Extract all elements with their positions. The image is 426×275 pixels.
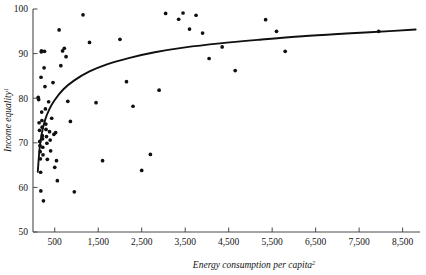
data-point [233,69,237,73]
data-point [42,199,46,203]
data-point [181,11,185,15]
data-point [149,153,153,157]
data-point [88,41,92,45]
data-point [54,131,58,135]
data-point [44,128,48,132]
x-tick-labels: 5001,5002,5003,5004,5005,5006,5007,5008,… [48,237,414,247]
data-point [59,64,63,68]
y-tick-label: 70 [19,138,29,148]
x-tick-label: 500 [48,237,63,247]
data-point [39,75,43,79]
y-tick-label: 90 [19,49,29,59]
data-point [64,55,68,59]
data-point [39,170,43,174]
y-tick-label: 80 [19,94,29,104]
scatter-plot-svg: 5001,5002,5003,5004,5005,5006,5007,5008,… [0,0,426,275]
data-point [45,135,49,139]
y-tick-label: 50 [19,227,29,237]
y-tick-label: 100 [14,4,29,14]
x-tick-label: 5,500 [261,237,283,247]
data-point [50,116,54,120]
data-point [62,46,66,50]
data-point [283,50,287,54]
data-point [194,13,198,17]
data-point [46,157,50,161]
fit-curve-path [38,30,416,172]
x-tick-label: 6,500 [305,237,327,247]
data-point [48,130,52,134]
fit-curve [38,30,416,172]
data-point [38,128,42,132]
x-tick-label: 1,500 [88,237,110,247]
data-point [45,141,49,145]
data-point [42,66,46,70]
data-point [118,37,122,41]
data-point [188,27,192,31]
data-point [40,110,44,114]
data-point [51,81,55,85]
data-point [37,98,41,102]
x-axis-title: Energy consumption per capita2 [192,259,315,270]
data-point [220,45,224,49]
x-tick-label: 8,500 [392,237,414,247]
data-point [94,101,98,105]
data-point [81,13,85,17]
data-point [140,169,144,173]
data-point [72,190,76,194]
data-point [43,50,47,54]
data-point [39,189,43,193]
data-point [40,119,44,123]
data-point [47,100,51,104]
data-point [125,80,129,84]
data-point [157,88,161,92]
y-axis-title: Income equality1 [2,88,13,153]
data-point [41,145,45,149]
data-point [41,153,45,157]
data-point [53,165,57,169]
data-point [57,28,61,32]
x-tick-label: 2,500 [131,237,153,247]
data-point [44,107,48,111]
data-point [177,17,181,21]
data-point [43,85,47,89]
data-point [264,18,268,22]
data-point [131,104,135,108]
data-point [201,31,205,35]
x-tick-label: 3,500 [175,237,197,247]
data-point [56,179,60,183]
data-point [101,159,105,163]
x-tick-label: 7,500 [348,237,370,247]
data-point [275,29,279,33]
data-point [66,99,70,103]
data-point [49,149,53,153]
data-point [69,120,73,124]
data-point [207,57,211,61]
data-point [164,12,168,16]
y-tick-labels: 5060708090100 [14,4,29,237]
chart-figure: 5001,5002,5003,5004,5005,5006,5007,5008,… [0,0,426,275]
data-point [48,138,52,142]
y-tick-label: 60 [19,183,29,193]
data-points [36,11,380,202]
x-tick-label: 4,500 [218,237,240,247]
data-point [55,159,59,163]
